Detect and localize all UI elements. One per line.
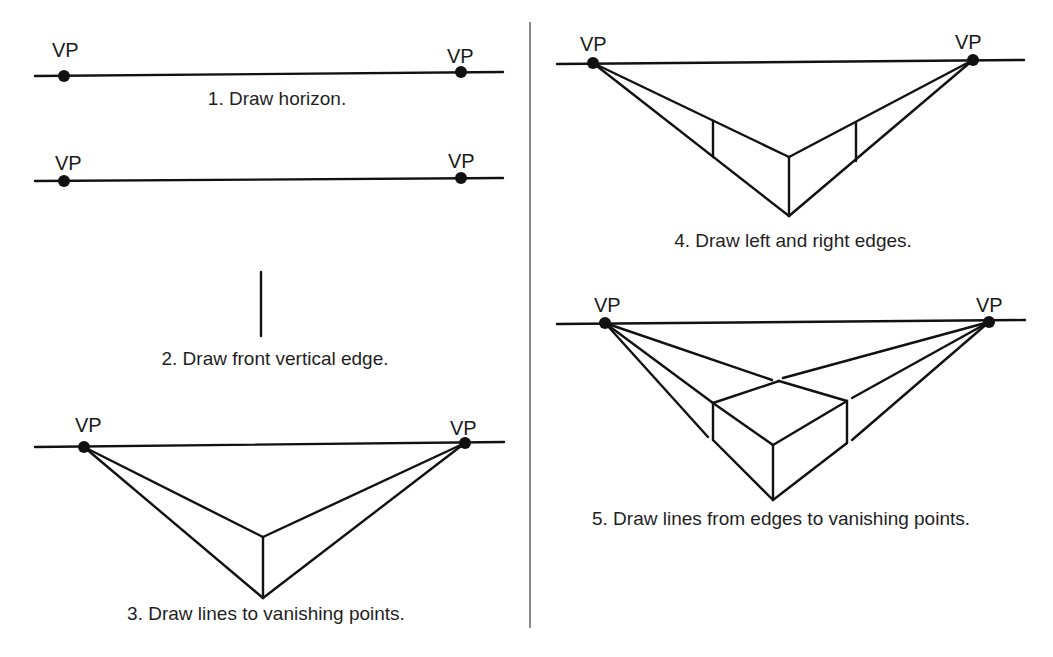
step5-vanishing-lines xyxy=(605,322,989,440)
step3-horizon-line xyxy=(35,442,504,447)
step4-horizon-line xyxy=(557,60,1024,64)
vanishing-point-dots xyxy=(58,54,995,453)
panel-divider xyxy=(529,22,531,628)
step5-box xyxy=(713,381,847,500)
vp-label: VP xyxy=(55,153,82,173)
vp-label: VP xyxy=(976,295,1003,315)
vp-dot xyxy=(455,172,467,184)
step1-caption: 1. Draw horizon. xyxy=(208,89,346,108)
vp-dot xyxy=(78,441,90,453)
vp-label: VP xyxy=(450,418,477,438)
step3-caption: 3. Draw lines to vanishing points. xyxy=(127,604,405,623)
vp-label: VP xyxy=(448,151,475,171)
vp-dot xyxy=(455,66,467,78)
vp-dot xyxy=(967,54,979,66)
step2-horizon-line xyxy=(35,178,503,181)
vp-label: VP xyxy=(955,32,982,52)
vp-dot xyxy=(58,175,70,187)
step2-caption: 2. Draw front vertical edge. xyxy=(161,349,388,368)
vp-dot xyxy=(587,57,599,69)
step5-horizon-line xyxy=(557,320,1025,324)
perspective-diagram xyxy=(0,0,1053,657)
vp-dot xyxy=(58,70,70,82)
vp-label: VP xyxy=(52,40,79,60)
step3-vanishing-lines xyxy=(84,443,465,598)
vp-dot xyxy=(599,317,611,329)
step4-vanishing-lines xyxy=(593,60,973,216)
step5-caption: 5. Draw lines from edges to vanishing po… xyxy=(592,509,970,528)
vp-label: VP xyxy=(75,415,102,435)
vp-dot xyxy=(983,316,995,328)
vp-label: VP xyxy=(594,295,621,315)
vp-label: VP xyxy=(580,34,607,54)
step1-horizon-line xyxy=(35,72,503,76)
step4-caption: 4. Draw left and right edges. xyxy=(674,231,912,250)
vp-label: VP xyxy=(447,46,474,66)
